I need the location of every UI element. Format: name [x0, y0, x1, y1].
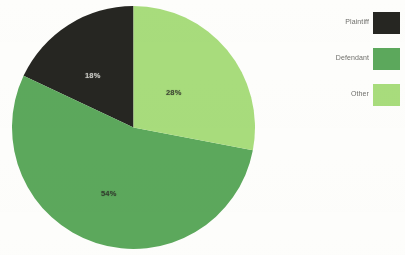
pie-svg: [11, 5, 256, 250]
legend-item-other: Other: [300, 84, 400, 120]
legend-item-defendant: Defendant: [300, 48, 400, 84]
legend-label-plaintiff: Plaintiff: [345, 18, 369, 25]
slice-label-defendant: 54%: [101, 189, 117, 198]
pie-chart-graphic: 18% 54% 28%: [11, 5, 256, 250]
legend-label-other: Other: [351, 90, 369, 97]
pie-chart-figure: 18% 54% 28% Plaintiff Defendant Other: [0, 0, 405, 255]
legend-label-defendant: Defendant: [336, 54, 369, 61]
legend-swatch-defendant: [373, 48, 400, 70]
legend-swatch-other: [373, 84, 400, 106]
pie-slice-group: [12, 6, 255, 249]
pie-slice-other: [134, 6, 256, 150]
slice-label-plaintiff: 18%: [85, 71, 101, 80]
legend-item-plaintiff: Plaintiff: [300, 12, 400, 48]
legend-swatch-plaintiff: [373, 12, 400, 34]
slice-label-other: 28%: [166, 88, 182, 97]
chart-legend: Plaintiff Defendant Other: [300, 12, 400, 120]
